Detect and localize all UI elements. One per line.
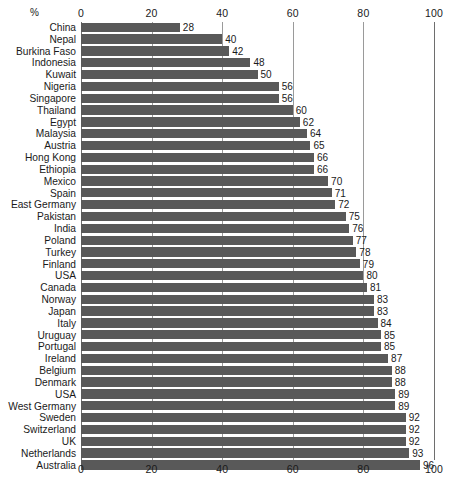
bar-value-label: 42 [229,46,243,58]
bar[interactable] [81,377,392,386]
bar-chart: % 020406080100 China28Nepal40Burkina Fas… [0,0,453,486]
bar[interactable] [81,23,180,32]
bar-value-label: 76 [349,223,363,235]
bar-row[interactable]: Malaysia64 [0,128,453,140]
bar[interactable] [81,153,314,162]
bar-row[interactable]: Thailand60 [0,105,453,117]
bar[interactable] [81,224,349,233]
bar[interactable] [81,401,395,410]
bar[interactable] [81,58,250,67]
bar[interactable] [81,271,363,280]
bar[interactable] [81,295,374,304]
bar[interactable] [81,247,356,256]
bar-row[interactable]: Turkey78 [0,247,453,259]
bar-row[interactable]: UK92 [0,436,453,448]
bar-row[interactable]: Spain71 [0,188,453,200]
bar-value-label: 78 [356,247,370,259]
bar[interactable] [81,34,222,43]
bar-row[interactable]: Denmark88 [0,377,453,389]
bar-row[interactable]: Nepal40 [0,34,453,46]
bar[interactable] [81,342,381,351]
bar-value-label: 92 [406,424,420,436]
bar-row[interactable]: Austria65 [0,140,453,152]
bar-value-label: 81 [367,282,381,294]
axis-tick-label-60: 60 [287,462,299,476]
category-label: Mexico [44,176,76,188]
bar-row[interactable]: Poland77 [0,235,453,247]
bar[interactable] [81,117,300,126]
bar[interactable] [81,105,293,114]
bar-value-label: 85 [381,341,395,353]
bar-row[interactable]: Ireland87 [0,353,453,365]
bar-row[interactable]: USA80 [0,270,453,282]
axis-tick-label-0: 0 [78,6,84,20]
bar-value-label: 87 [388,353,402,365]
bar[interactable] [81,283,367,292]
bar[interactable] [81,46,229,55]
bar-row[interactable]: Burkina Faso42 [0,46,453,58]
bar-row[interactable]: USA89 [0,389,453,401]
bar-row[interactable]: Switzerland92 [0,424,453,436]
bar-row[interactable]: West Germany89 [0,401,453,413]
bar-row[interactable]: East Germany72 [0,199,453,211]
bar[interactable] [81,70,258,79]
bar-row[interactable]: Finland79 [0,259,453,271]
bar-row[interactable]: Nigeria56 [0,81,453,93]
bar[interactable] [81,259,360,268]
bar[interactable] [81,236,353,245]
bar-row[interactable]: Canada81 [0,282,453,294]
bar-row[interactable]: Hong Kong66 [0,152,453,164]
bar-value-label: 83 [374,294,388,306]
bar-row[interactable]: Singapore56 [0,93,453,105]
bar-row[interactable]: Belgium88 [0,365,453,377]
bar[interactable] [81,94,279,103]
category-label: Malaysia [36,128,76,140]
bar-value-label: 66 [314,164,328,176]
bar[interactable] [81,330,381,339]
bar-row[interactable]: Indonesia48 [0,57,453,69]
bar[interactable] [81,141,310,150]
category-label: Sweden [39,412,76,424]
axis-tick-label-40: 40 [216,462,228,476]
bar[interactable] [81,176,328,185]
bar-row[interactable]: Uruguay85 [0,330,453,342]
bar-row[interactable]: India76 [0,223,453,235]
bar[interactable] [81,318,378,327]
bar[interactable] [81,413,406,422]
percent-axis-label: % [30,6,39,20]
bar-row[interactable]: Egypt62 [0,117,453,129]
bar[interactable] [81,306,374,315]
category-label: Poland [44,235,76,247]
bar[interactable] [81,437,406,446]
bar-row[interactable]: Norway83 [0,294,453,306]
bar[interactable] [81,389,395,398]
bar-value-label: 92 [406,412,420,424]
axis-tick-label-20: 20 [146,6,158,20]
bar[interactable] [81,188,332,197]
bar-value-label: 93 [409,448,423,460]
bar-value-label: 66 [314,152,328,164]
axis-tick-label-20: 20 [146,462,158,476]
bar[interactable] [81,129,307,138]
bar-row[interactable]: Pakistan75 [0,211,453,223]
bar-row[interactable]: China28 [0,22,453,34]
bar-row[interactable]: Italy84 [0,318,453,330]
bar-row[interactable]: Japan83 [0,306,453,318]
bar[interactable] [81,448,409,457]
bar[interactable] [81,165,314,174]
bar-row[interactable]: Netherlands93 [0,448,453,460]
bar[interactable] [81,354,388,363]
bar[interactable] [81,82,279,91]
category-label: Switzerland [23,424,76,436]
bar-row[interactable]: Portugal85 [0,341,453,353]
bar[interactable] [81,366,392,375]
bar-row[interactable]: Mexico70 [0,176,453,188]
bar-row[interactable]: Kuwait50 [0,69,453,81]
bar[interactable] [81,425,406,434]
bar[interactable] [81,200,335,209]
bar-row[interactable]: Sweden92 [0,412,453,424]
bar[interactable] [81,212,346,221]
axis-tick-label-0: 0 [78,462,84,476]
axis-tick-label-80: 80 [357,6,369,20]
bar-row[interactable]: Ethiopia66 [0,164,453,176]
